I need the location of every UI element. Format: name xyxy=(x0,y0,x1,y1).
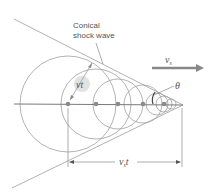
angle-label: θ xyxy=(175,80,180,91)
cone-lower-line xyxy=(12,105,183,188)
shock-wave-diagram: vt Conical shock wave vs θ vst xyxy=(0,0,218,195)
source-dot-3 xyxy=(116,102,121,107)
angle-leader-line xyxy=(154,86,174,95)
dimension-arrowhead-right xyxy=(176,160,181,164)
source-dot-1 xyxy=(66,102,71,107)
motion-axis xyxy=(14,104,183,105)
source-dot-4 xyxy=(141,102,146,107)
source-dot-2 xyxy=(94,102,99,107)
source-velocity-label: vs xyxy=(165,54,172,66)
dimension-arrowhead-left xyxy=(69,160,74,164)
source-dot-5 xyxy=(162,102,167,107)
vt-arrowhead-top xyxy=(88,63,92,68)
vt-arrowhead-bottom xyxy=(70,95,74,100)
velocity-arrowhead xyxy=(196,64,204,72)
shock-wave-label-line1: Conical xyxy=(73,21,100,30)
wave-radius-label: vt xyxy=(76,79,83,90)
distance-label: vst xyxy=(119,156,129,168)
shock-wave-label-line2: shock wave xyxy=(73,31,115,40)
